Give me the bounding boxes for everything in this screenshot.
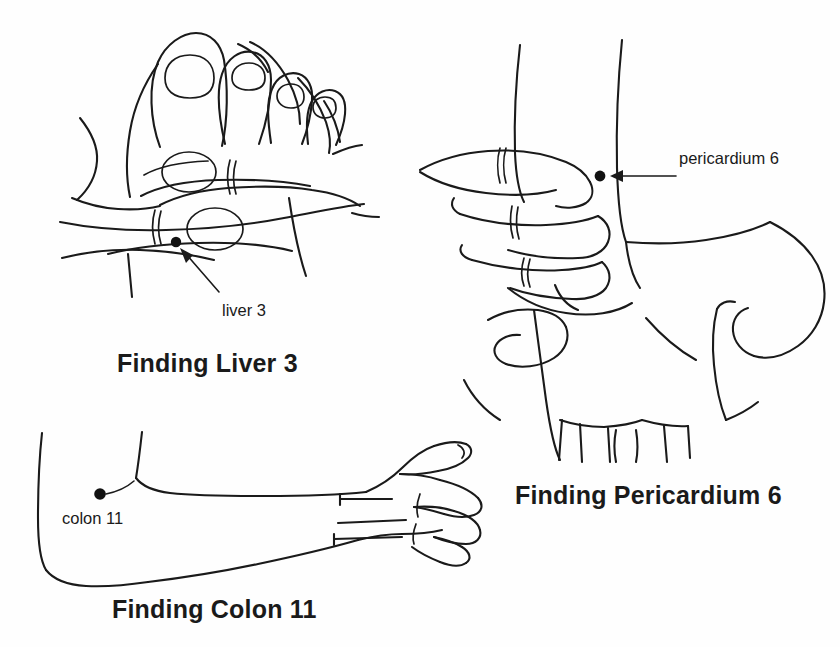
figure-pericardium-6 bbox=[420, 20, 840, 470]
liver-3-point-dot bbox=[171, 237, 181, 247]
figure-liver-3 bbox=[0, 0, 380, 340]
figure-colon-11 bbox=[20, 420, 490, 590]
colon-11-point-label: colon 11 bbox=[62, 509, 123, 528]
colon-11-leader-line bbox=[106, 481, 134, 494]
colon-11-point-dot bbox=[94, 488, 106, 500]
illustration-page: liver 3 Finding Liver 3 bbox=[0, 0, 840, 647]
liver-3-point-label: liver 3 bbox=[222, 301, 266, 320]
caption-finding-liver-3: Finding Liver 3 bbox=[117, 349, 298, 378]
pericardium-6-point-label: pericardium 6 bbox=[679, 149, 779, 168]
caption-finding-pericardium-6: Finding Pericardium 6 bbox=[515, 481, 782, 510]
caption-finding-colon-11: Finding Colon 11 bbox=[112, 595, 317, 624]
pericardium-6-point-dot bbox=[595, 171, 606, 182]
